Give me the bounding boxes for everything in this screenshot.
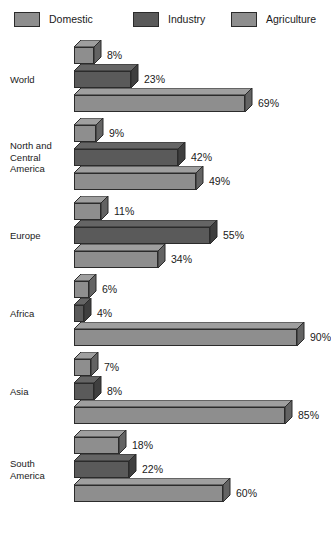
bar-value-label: 42% — [191, 149, 212, 166]
bar-industry — [74, 227, 210, 244]
bar-domestic — [74, 437, 119, 454]
bar-row: 60% — [0, 478, 328, 502]
bar-value-label: 9% — [109, 125, 124, 142]
bar-row: 69% — [0, 88, 328, 112]
bar-side-face — [96, 118, 103, 142]
bar-value-label: 8% — [107, 47, 122, 64]
bar-row: 42% — [0, 142, 328, 166]
bar-front-face — [74, 203, 101, 220]
bar-top-face — [74, 166, 203, 173]
legend-item-domestic: Domestic — [14, 10, 93, 28]
bar-front-face — [74, 173, 196, 190]
legend-item-industry: Industry — [133, 10, 205, 28]
bar-value-label: 7% — [104, 359, 119, 376]
bar-agriculture — [74, 251, 158, 268]
bar-value-label: 55% — [223, 227, 244, 244]
bar-domestic — [74, 125, 96, 142]
bar-front-face — [74, 149, 178, 166]
bar-group: Asia7%8%85% — [0, 352, 328, 431]
bar-row: 9% — [0, 118, 328, 142]
bar-front-face — [74, 281, 89, 298]
bar-side-face — [285, 400, 292, 424]
chart-legend: Domestic Industry Agriculture — [0, 0, 328, 34]
bar-top-face — [74, 478, 230, 485]
bar-row: 49% — [0, 166, 328, 190]
bar-row: 55% — [0, 220, 328, 244]
bar-row: 23% — [0, 64, 328, 88]
plot-area: World8%23%69%North andCentralAmerica9%42… — [0, 34, 328, 543]
bar-side-face — [210, 220, 217, 244]
bar-domestic — [74, 47, 94, 64]
bar-industry — [74, 149, 178, 166]
bar-front-face — [74, 407, 285, 424]
bar-group: North andCentralAmerica9%42%49% — [0, 118, 328, 197]
bar-agriculture — [74, 407, 285, 424]
legend-swatch-agriculture — [231, 12, 257, 27]
bar-front-face — [74, 329, 297, 346]
bar-row: 11% — [0, 196, 328, 220]
bar-row: 34% — [0, 244, 328, 268]
bar-top-face — [74, 88, 252, 95]
bar-side-face — [89, 274, 96, 298]
bar-value-label: 49% — [209, 173, 230, 190]
bar-top-face — [74, 220, 217, 227]
bar-front-face — [74, 71, 131, 88]
bar-front-face — [74, 227, 210, 244]
legend-label-industry: Industry — [168, 14, 205, 25]
bar-side-face — [297, 322, 304, 346]
bar-value-label: 34% — [171, 251, 192, 268]
bar-value-label: 6% — [102, 281, 117, 298]
bar-front-face — [74, 437, 119, 454]
legend-label-agriculture: Agriculture — [266, 14, 316, 25]
bar-side-face — [131, 64, 138, 88]
bar-industry — [74, 305, 84, 322]
bar-front-face — [74, 383, 94, 400]
bar-row: 22% — [0, 454, 328, 478]
bar-industry — [74, 71, 131, 88]
bar-domestic — [74, 359, 91, 376]
bar-side-face — [94, 376, 101, 400]
bar-side-face — [94, 40, 101, 64]
bar-row: 8% — [0, 40, 328, 64]
bar-front-face — [74, 461, 129, 478]
bar-front-face — [74, 305, 84, 322]
bar-row: 90% — [0, 322, 328, 346]
bar-side-face — [223, 478, 230, 502]
bar-value-label: 23% — [144, 71, 165, 88]
bar-side-face — [84, 298, 91, 322]
bar-domestic — [74, 281, 89, 298]
bar-top-face — [74, 454, 136, 461]
bar-side-face — [101, 196, 108, 220]
bar-row: 8% — [0, 376, 328, 400]
bar-value-label: 22% — [142, 461, 163, 478]
bar-top-face — [74, 142, 185, 149]
bar-row: 18% — [0, 430, 328, 454]
bar-side-face — [196, 166, 203, 190]
bar-agriculture — [74, 485, 223, 502]
bar-value-label: 60% — [236, 485, 257, 502]
bar-value-label: 11% — [114, 203, 134, 220]
bar-value-label: 69% — [258, 95, 279, 112]
bar-agriculture — [74, 95, 245, 112]
bar-top-face — [74, 64, 138, 71]
bar-side-face — [119, 430, 126, 454]
legend-swatch-domestic — [14, 12, 40, 27]
bar-row: 7% — [0, 352, 328, 376]
bar-side-face — [245, 88, 252, 112]
bar-side-face — [129, 454, 136, 478]
bar-front-face — [74, 95, 245, 112]
bar-front-face — [74, 47, 94, 64]
bar-top-face — [74, 400, 292, 407]
bar-group: SouthAmerica18%22%60% — [0, 430, 328, 509]
bar-front-face — [74, 485, 223, 502]
bar-domestic — [74, 203, 101, 220]
bar-front-face — [74, 359, 91, 376]
bar-industry — [74, 383, 94, 400]
bar-value-label: 90% — [310, 329, 331, 346]
bar-front-face — [74, 125, 96, 142]
bar-value-label: 85% — [298, 407, 319, 424]
bar-value-label: 4% — [97, 305, 112, 322]
bar-side-face — [178, 142, 185, 166]
bar-top-face — [74, 322, 304, 329]
bar-industry — [74, 461, 129, 478]
